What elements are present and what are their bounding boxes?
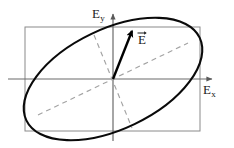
x-axis-label-subscript: x (211, 89, 216, 99)
field-vector-label: E (138, 32, 146, 46)
x-axis-label: Ex (203, 83, 216, 99)
y-axis-label: Ey (92, 7, 105, 23)
field-vector-label-base: E (138, 32, 146, 47)
field-vector-label-wrap: E (138, 32, 146, 46)
y-axis-label-subscript: y (100, 13, 105, 23)
figure-canvas (0, 0, 234, 148)
polarization-ellipse-figure: Ey Ex E (0, 0, 234, 148)
x-axis-label-base: E (203, 82, 211, 97)
y-axis-label-base: E (92, 6, 100, 21)
